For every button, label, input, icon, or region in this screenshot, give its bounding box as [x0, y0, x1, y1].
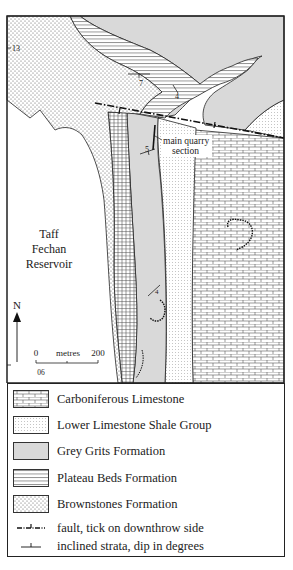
legend: Carboniferous Limestone Lower Limestone … — [7, 383, 285, 557]
grey-swatch-icon — [13, 442, 49, 460]
grid-ref-north: 13 — [12, 44, 20, 53]
legend-item-fault: fault, tick on downthrow side — [13, 518, 204, 538]
quarry-label-line1: main quarry — [163, 136, 209, 146]
scale-end: 200 — [91, 348, 105, 358]
scale-unit: metres — [56, 348, 80, 358]
dense-dots-swatch-icon — [13, 495, 49, 513]
legend-item-plateau-beds: Plateau Beds Formation — [13, 468, 177, 488]
brick-swatch-icon — [13, 390, 49, 408]
quarry-label-line2: section — [172, 146, 199, 156]
dip-value: 7 — [139, 79, 143, 88]
north-label: N — [13, 299, 21, 311]
legend-label: Carboniferous Limestone — [57, 392, 184, 407]
legend-item-brownstones: Brownstones Formation — [13, 494, 177, 514]
reservoir-label-line3: Reservoir — [26, 257, 73, 271]
fault-symbol-icon — [13, 521, 49, 535]
reservoir-label-line1: Taff — [39, 227, 59, 241]
unit-carboniferous-limestone — [192, 130, 284, 383]
dip-value: 5 — [145, 145, 149, 154]
dip-value: 4 — [155, 288, 159, 296]
geological-map: 7 4 5 4 main quarry section Taff Fechan … — [0, 0, 293, 383]
legend-label: Plateau Beds Formation — [57, 471, 177, 486]
legend-label: Lower Limestone Shale Group — [57, 418, 211, 433]
legend-label: Grey Grits Formation — [57, 444, 165, 459]
dip-symbol-icon — [13, 539, 49, 553]
scale-start: 0 — [34, 348, 39, 358]
reservoir-label-line2: Fechan — [32, 242, 67, 256]
legend-label: fault, tick on downthrow side — [57, 521, 204, 536]
legend-item-lower-limestone-shale: Lower Limestone Shale Group — [13, 415, 211, 435]
legend-label: inclined strata, dip in degrees — [57, 539, 204, 554]
fine-dots-swatch-icon — [13, 416, 49, 434]
legend-item-dip: inclined strata, dip in degrees — [13, 536, 204, 556]
dip-value: 4 — [175, 92, 179, 101]
hlines-swatch-icon — [13, 469, 49, 487]
legend-item-carboniferous-limestone: Carboniferous Limestone — [13, 389, 184, 409]
grid-ref-east: 06 — [37, 368, 45, 377]
legend-label: Brownstones Formation — [57, 497, 177, 512]
legend-item-grey-grits: Grey Grits Formation — [13, 441, 165, 461]
